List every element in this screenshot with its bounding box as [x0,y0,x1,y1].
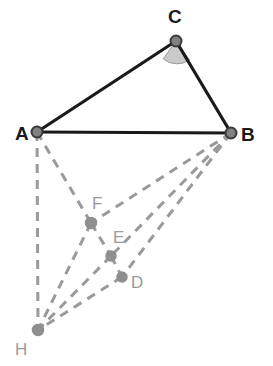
vertex-node-a [32,127,43,138]
vertex-node-b [226,128,237,139]
vertex-node-f [86,218,97,229]
vertex-node-h [33,325,44,336]
geometry-canvas: A B C D E F H [0,0,273,366]
point-label-f: F [92,194,102,213]
vertex-node-c [171,36,182,47]
vertex-node-d [117,272,127,282]
point-label-h: H [15,340,27,359]
edge-AB [37,132,231,133]
point-label-c: C [168,6,182,27]
figure-background [0,0,273,366]
point-label-b: B [241,124,255,145]
point-label-d: D [131,273,143,292]
point-label-a: A [15,123,29,144]
vertex-node-e [106,251,116,261]
geometry-figure: A B C D E F H [0,0,273,366]
point-label-e: E [113,228,124,247]
